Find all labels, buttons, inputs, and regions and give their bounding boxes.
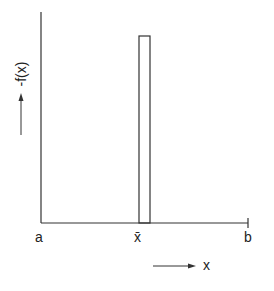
x-arrowhead-icon <box>188 264 196 269</box>
spike-bar <box>139 36 150 223</box>
y-axis-label: -f(x) <box>13 57 29 91</box>
tick-label-mean: x̄ <box>134 229 141 245</box>
tick-label-a: a <box>35 229 43 245</box>
x-axis-label: x <box>203 257 210 273</box>
diagram-canvas <box>0 0 274 291</box>
tick-label-b: b <box>244 229 252 245</box>
y-arrowhead-icon <box>19 93 24 101</box>
